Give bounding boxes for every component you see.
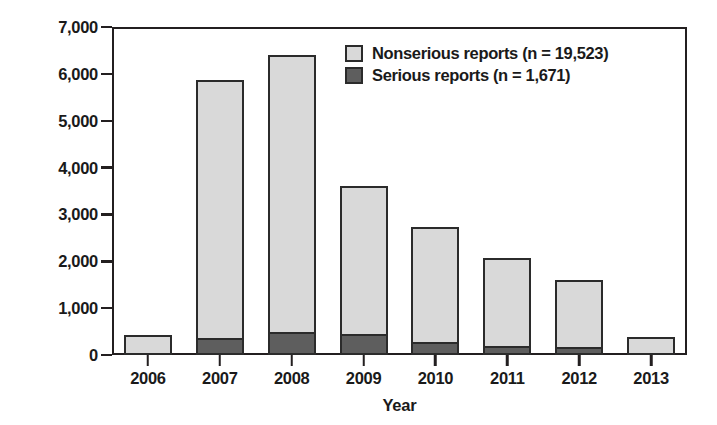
y-tick-mark	[101, 213, 112, 216]
y-tick-mark	[101, 120, 112, 123]
x-axis: 20062007200820092010201120122013	[112, 355, 687, 395]
x-tick-label-2013: 2013	[633, 369, 669, 388]
bar-segment-nonserious[interactable]	[629, 339, 673, 353]
bar-segment-nonserious[interactable]	[485, 260, 529, 346]
bar-segment-nonserious[interactable]	[126, 337, 170, 353]
bar-segment-nonserious[interactable]	[270, 57, 314, 332]
y-tick-label: 1,000	[58, 299, 98, 318]
y-tick-label: 5,000	[58, 111, 98, 130]
legend-swatch-nonserious	[345, 45, 363, 62]
bar-group[interactable]	[627, 27, 675, 355]
bar-stack[interactable]	[124, 335, 172, 355]
bar-segment-nonserious[interactable]	[413, 229, 457, 342]
bar-segment-serious[interactable]	[413, 342, 457, 353]
bar-segment-serious[interactable]	[485, 346, 529, 353]
x-tick-mark	[290, 355, 293, 366]
bar-stack[interactable]	[555, 280, 603, 355]
x-tick-mark	[578, 355, 581, 366]
bar-segment-nonserious[interactable]	[198, 82, 242, 338]
x-tick-mark	[362, 355, 365, 366]
x-axis-title: Year	[112, 396, 687, 415]
y-tick-label: 0	[89, 346, 98, 365]
x-tick-mark	[219, 355, 222, 366]
x-tick-mark	[147, 355, 150, 366]
bar-segment-serious[interactable]	[270, 332, 314, 353]
x-tick-mark	[434, 355, 437, 366]
bar-segment-serious[interactable]	[342, 334, 386, 353]
x-tick-mark	[650, 355, 653, 366]
bar-group[interactable]	[268, 27, 316, 355]
y-tick-mark	[101, 166, 112, 169]
x-tick-label-2012: 2012	[561, 369, 597, 388]
legend-swatch-serious	[345, 67, 363, 84]
bar-group[interactable]	[124, 27, 172, 355]
bar-stack[interactable]	[268, 55, 316, 355]
bar-stack[interactable]	[196, 80, 244, 355]
y-tick-mark	[101, 354, 112, 357]
legend-label: Serious reports (n = 1,671)	[372, 66, 570, 85]
y-tick-mark	[101, 260, 112, 263]
bar-stack[interactable]	[483, 258, 531, 355]
x-tick-mark	[506, 355, 509, 366]
y-tick-label: 7,000	[58, 18, 98, 37]
bar-segment-serious[interactable]	[198, 338, 242, 353]
y-tick-label: 3,000	[58, 205, 98, 224]
legend-entry[interactable]: Serious reports (n = 1,671)	[345, 66, 608, 85]
bar-stack[interactable]	[411, 227, 459, 355]
bar-stack[interactable]	[627, 337, 675, 355]
x-tick-label-2010: 2010	[418, 369, 454, 388]
y-tick-mark	[101, 73, 112, 76]
y-tick-label: 4,000	[58, 158, 98, 177]
x-tick-label-2011: 2011	[490, 369, 525, 388]
chart-figure: No. of reports 01,0002,0003,0004,0005,00…	[0, 0, 717, 425]
y-tick-mark	[101, 26, 112, 29]
legend-entry[interactable]: Nonserious reports (n = 19,523)	[345, 44, 608, 63]
bar-segment-serious[interactable]	[557, 347, 601, 353]
bar-stack[interactable]	[340, 186, 388, 355]
bar-segment-nonserious[interactable]	[342, 188, 386, 334]
legend-label: Nonserious reports (n = 19,523)	[372, 44, 608, 63]
chart-legend: Nonserious reports (n = 19,523)Serious r…	[345, 44, 608, 85]
y-tick-label: 2,000	[58, 252, 98, 271]
bar-segment-nonserious[interactable]	[557, 282, 601, 347]
x-tick-label-2006: 2006	[130, 369, 166, 388]
bar-group[interactable]	[196, 27, 244, 355]
y-tick-label: 6,000	[58, 64, 98, 83]
y-tick-mark	[101, 307, 112, 310]
x-tick-label-2007: 2007	[202, 369, 238, 388]
x-tick-label-2009: 2009	[346, 369, 382, 388]
x-tick-label-2008: 2008	[274, 369, 310, 388]
